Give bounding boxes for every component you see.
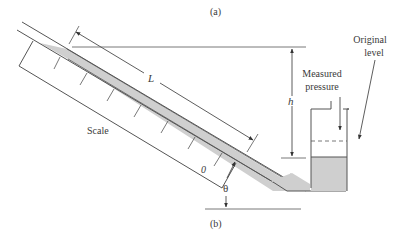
scale-tick — [80, 73, 87, 85]
scale-tick — [134, 105, 141, 117]
inclined-manometer-diagram: (a) (b) L h θ 0 Scale Measured pressure … — [0, 0, 410, 241]
reservoir-fluid — [311, 157, 347, 191]
height-label: h — [288, 95, 294, 107]
height-dimension — [72, 47, 306, 158]
scale-tick — [54, 57, 60, 69]
zero-label: 0 — [201, 164, 206, 175]
original-level-leader — [359, 60, 375, 139]
original-level-label-2: level — [364, 47, 384, 58]
reservoir — [311, 101, 372, 191]
scale-tick — [107, 89, 114, 101]
figure-label-a: (a) — [210, 6, 221, 18]
measured-pressure-label-2: pressure — [305, 81, 339, 92]
angle-label: θ — [223, 182, 228, 194]
scale-tick — [161, 121, 168, 133]
figure-label-b: (b) — [210, 218, 222, 230]
scale-tick — [188, 137, 195, 149]
length-label: L — [147, 72, 154, 84]
original-level-label-1: Original — [353, 34, 387, 45]
scale-label: Scale — [87, 125, 109, 136]
measured-pressure-label-1: Measured — [302, 68, 341, 79]
